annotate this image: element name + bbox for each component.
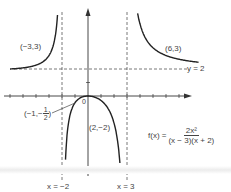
point-label-prefix: (−1,− <box>24 109 43 118</box>
point-label-minus1-minus-half: (−1,−12) <box>24 106 51 121</box>
asymptote-label-x-minus-2: x = −2 <box>47 183 69 191</box>
asymptote-label-x-3: x = 3 <box>117 183 135 191</box>
curve-branch-right <box>138 13 199 62</box>
point-label-minus3-3: (−3,3) <box>20 43 41 51</box>
asymptote-label-y-2: y = 2 <box>187 65 205 73</box>
formula-lhs: f(x) = <box>148 131 166 140</box>
function-formula: f(x) = 2x² (x − 3)(x + 2) <box>148 126 214 145</box>
formula-numerator: 2x² <box>184 126 199 136</box>
fraction-denominator: 2 <box>44 114 48 121</box>
axes <box>4 8 192 176</box>
point-label-6-3: (6,3) <box>165 45 181 53</box>
x-axis-arrow-icon <box>184 94 192 99</box>
formula-fraction: 2x² (x − 3)(x + 2) <box>168 126 214 145</box>
scan-artifact-band <box>0 166 231 174</box>
function-graph <box>0 0 231 192</box>
y-axis-arrow-icon <box>86 8 91 16</box>
point-label-2-minus2: (2,−2) <box>89 124 110 132</box>
point-label-suffix: ) <box>49 109 52 118</box>
formula-denominator: (x − 3)(x + 2) <box>168 136 214 145</box>
origin-label: 0 <box>82 98 86 105</box>
